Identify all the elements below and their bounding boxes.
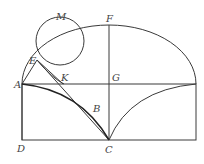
label-M: M <box>55 11 67 22</box>
label-K: K <box>60 72 69 83</box>
label-G: G <box>112 72 120 83</box>
label-F: F <box>105 13 114 24</box>
label-D: D <box>16 143 25 154</box>
label-A: A <box>13 79 21 90</box>
geometry-diagram: M F E K G A B D C <box>0 0 204 164</box>
circle-M <box>36 17 84 65</box>
label-E: E <box>28 55 37 66</box>
arc-right-C <box>109 84 196 140</box>
label-B: B <box>92 103 100 114</box>
label-C: C <box>105 144 113 155</box>
